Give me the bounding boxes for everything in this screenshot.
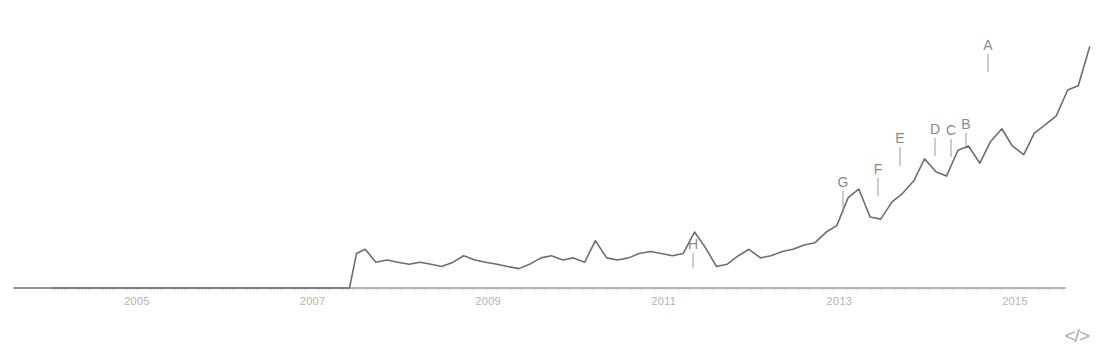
annotation-g[interactable]: G <box>838 174 849 213</box>
chart-container: 200520072009201120132015 ABCDEFGH </> <box>0 0 1107 353</box>
annotation-a[interactable]: A <box>983 37 993 72</box>
annotation-e[interactable]: E <box>895 130 904 166</box>
annotation-label-a: A <box>983 37 993 53</box>
annotation-label-d: D <box>930 121 940 137</box>
code-embed-icon-glyph: </> <box>1065 325 1089 346</box>
annotation-label-c: C <box>946 122 956 138</box>
x-axis-tick-labels: 200520072009201120132015 <box>124 295 1028 307</box>
annotation-label-g: G <box>838 174 849 190</box>
annotation-h[interactable]: H <box>688 236 698 268</box>
line-chart: 200520072009201120132015 ABCDEFGH <box>0 0 1107 353</box>
x-tick-label-2005: 2005 <box>124 295 150 307</box>
annotation-c[interactable]: C <box>946 122 956 157</box>
x-tick-label-2013: 2013 <box>827 295 853 307</box>
annotation-label-b: B <box>961 116 970 132</box>
annotation-group: ABCDEFGH <box>688 37 993 268</box>
x-tick-label-2007: 2007 <box>300 295 326 307</box>
x-tick-label-2009: 2009 <box>475 295 501 307</box>
annotation-label-h: H <box>688 236 698 252</box>
annotation-d[interactable]: D <box>930 121 940 156</box>
series-line-value <box>14 47 1090 288</box>
annotation-b[interactable]: B <box>961 116 970 146</box>
annotation-f[interactable]: F <box>874 161 883 196</box>
code-embed-icon[interactable]: </> <box>1065 326 1089 345</box>
x-tick-label-2015: 2015 <box>1002 295 1028 307</box>
series-group <box>14 47 1090 288</box>
x-tick-label-2011: 2011 <box>651 295 676 307</box>
annotation-label-f: F <box>874 161 883 177</box>
annotation-label-e: E <box>895 130 904 146</box>
